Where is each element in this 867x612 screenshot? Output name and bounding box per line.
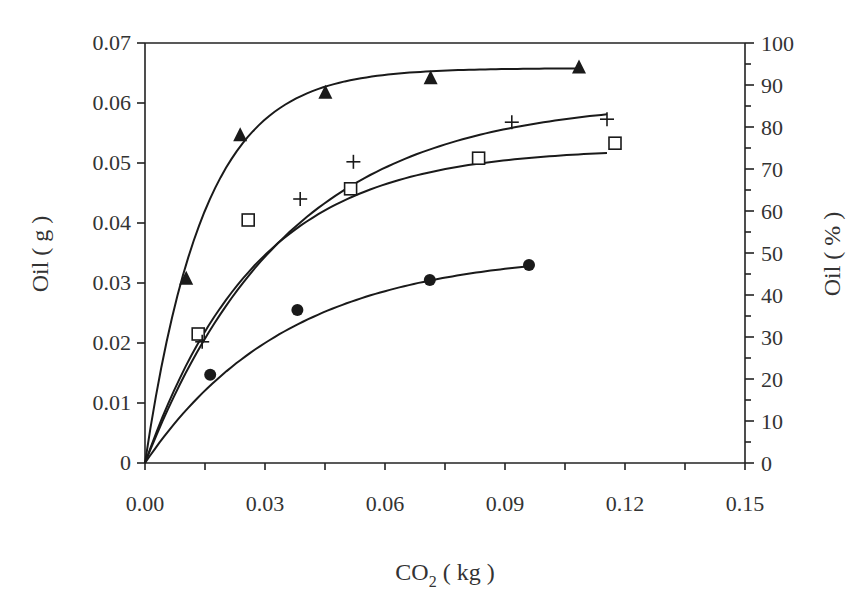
y2-tick-label: 10 bbox=[761, 409, 783, 434]
y-tick-label: 0.07 bbox=[93, 30, 132, 55]
filled-circle-marker bbox=[291, 304, 303, 316]
plus-fit-curve bbox=[145, 114, 607, 463]
y2-tick-label: 80 bbox=[761, 115, 783, 140]
x-axis-title: CO2 ( kg ) bbox=[395, 559, 494, 590]
x-tick-label: 0.12 bbox=[606, 491, 645, 516]
x-tick-label: 0.00 bbox=[126, 491, 165, 516]
filled-circle-marker bbox=[424, 274, 436, 286]
y-tick-label: 0.04 bbox=[93, 210, 132, 235]
filled-circle-fit-curve bbox=[145, 266, 529, 463]
x-tick-label: 0.15 bbox=[726, 491, 765, 516]
y-tick-label: 0.06 bbox=[93, 90, 132, 115]
data-markers bbox=[179, 60, 621, 381]
open-square-marker bbox=[242, 214, 254, 226]
y-tick-label: 0.03 bbox=[93, 270, 132, 295]
y-tick-label: 0.01 bbox=[93, 390, 132, 415]
plus-marker bbox=[293, 192, 307, 206]
y-tick-label: 0 bbox=[120, 450, 131, 475]
axes: 00.010.020.030.040.050.060.070.000.030.0… bbox=[93, 30, 795, 516]
y2-tick-label: 100 bbox=[761, 31, 794, 56]
plus-marker bbox=[346, 155, 360, 169]
y2-tick-label: 50 bbox=[761, 241, 783, 266]
open-square-marker bbox=[609, 137, 621, 149]
filled-circle-marker bbox=[204, 369, 216, 381]
y2-tick-label: 60 bbox=[761, 199, 783, 224]
open-square-marker bbox=[345, 183, 357, 195]
y2-tick-label: 20 bbox=[761, 367, 783, 392]
filled-triangle-marker bbox=[572, 60, 586, 74]
filled-circle-marker bbox=[523, 259, 535, 271]
x-tick-label: 0.09 bbox=[486, 491, 525, 516]
fit-curves bbox=[145, 69, 607, 464]
y-tick-label: 0.05 bbox=[93, 150, 132, 175]
x-tick-label: 0.03 bbox=[246, 491, 285, 516]
y2-tick-label: 0 bbox=[761, 451, 772, 476]
axis-labels: CO2 ( kg ) Oil ( g ) Oil ( % ) bbox=[27, 212, 845, 590]
y2-tick-label: 30 bbox=[761, 325, 783, 350]
open-square-fit-curve bbox=[145, 153, 607, 463]
open-square-marker bbox=[473, 152, 485, 164]
filled-triangle-marker bbox=[233, 127, 247, 141]
y2-tick-label: 90 bbox=[761, 73, 783, 98]
y2-tick-label: 70 bbox=[761, 157, 783, 182]
y2-tick-label: 40 bbox=[761, 283, 783, 308]
oil-extraction-chart: 00.010.020.030.040.050.060.070.000.030.0… bbox=[0, 0, 867, 612]
x-tick-label: 0.06 bbox=[366, 491, 405, 516]
y2-axis-title: Oil ( % ) bbox=[819, 212, 845, 297]
y-tick-label: 0.02 bbox=[93, 330, 132, 355]
filled-triangle-marker bbox=[318, 85, 332, 99]
y-axis-title: Oil ( g ) bbox=[27, 216, 53, 293]
